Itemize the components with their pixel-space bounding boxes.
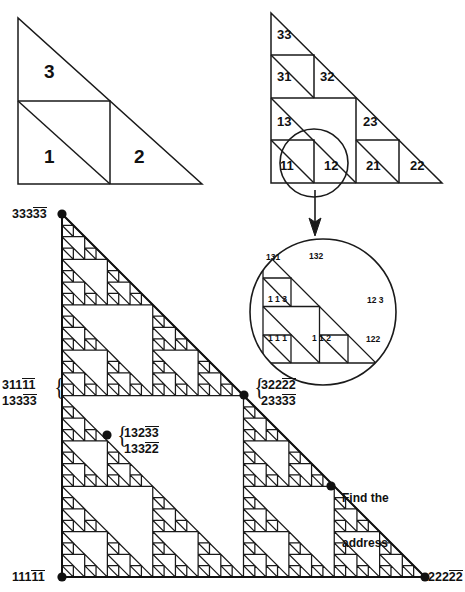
- addr-32222-text: 32222: [261, 378, 296, 392]
- vertex-dot-33333: [57, 209, 66, 218]
- address-33333: 33333: [12, 206, 47, 222]
- address-group-center-mid: 32222 23333: [261, 377, 296, 409]
- address-group-left-mid: 31111 13333: [2, 377, 37, 409]
- find-line-2: address: [342, 536, 389, 551]
- vertex-dot-find-address: [326, 481, 335, 490]
- addr-11111-text: 11111: [12, 570, 45, 584]
- address-11111: 11111: [12, 569, 45, 585]
- addr-13333-text: 13333: [2, 394, 37, 408]
- addr-31111-text: 31111: [2, 378, 35, 392]
- vertex-dot-13233-13322: [102, 430, 111, 439]
- addr-22222-text: 22222: [428, 570, 463, 584]
- addr-23333-text: 23333: [261, 394, 296, 408]
- addr-13322-text: 13322: [124, 442, 159, 456]
- find-line-1: Find the: [342, 491, 389, 506]
- vertex-dot-32222-23333: [239, 390, 248, 399]
- annotation-find-the-address: Find the address: [342, 461, 389, 566]
- vertex-markers: [0, 0, 465, 592]
- address-22222: 22222: [428, 569, 463, 585]
- vertex-dot-11111: [57, 572, 66, 581]
- addr-13233-text: 13233: [124, 426, 159, 440]
- address-group-inner: 13233 13322: [124, 425, 159, 457]
- brace-left-mid: {: [54, 374, 64, 400]
- addr-33333-text: 33333: [12, 207, 47, 221]
